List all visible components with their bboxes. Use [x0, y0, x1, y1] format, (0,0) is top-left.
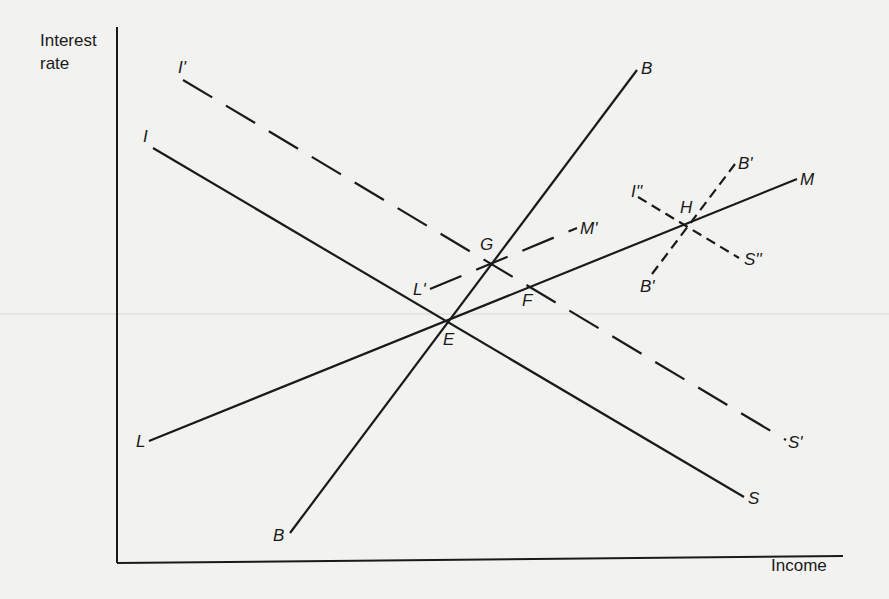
label-lm-end: M: [800, 170, 815, 189]
x-axis-label: Income: [771, 556, 827, 575]
diagram: Interest rate Income I S I' S' I'' S'' L…: [0, 0, 889, 599]
curve-lm-prime: [430, 228, 577, 289]
label-bp-end: B: [641, 59, 652, 78]
curve-is-prime: [183, 80, 786, 440]
label-lm-start: L: [136, 432, 145, 451]
label-is-end: S: [748, 489, 760, 508]
label-lm-prime-end: M': [580, 219, 598, 238]
label-lm-prime-start: L': [413, 280, 426, 299]
curve-lm: [149, 179, 797, 441]
label-is-double-prime-start: I'': [631, 182, 643, 201]
x-axis: [117, 556, 843, 563]
curve-bp: [290, 70, 637, 533]
label-is-start: I: [143, 127, 148, 146]
intersection-e: E: [443, 330, 455, 349]
label-is-prime-end: S': [788, 433, 803, 452]
label-is-prime-start: I': [178, 58, 187, 77]
intersection-f: F: [522, 291, 534, 310]
label-is-double-prime-end: S'': [744, 250, 763, 269]
y-axis-label-line1: Interest: [40, 31, 97, 50]
label-bp-start: B: [273, 526, 284, 545]
curve-bp-prime: [652, 164, 735, 274]
label-bp-prime-end: B': [738, 154, 753, 173]
y-axis-label-line2: rate: [40, 54, 69, 73]
intersection-h: H: [680, 198, 693, 217]
label-bp-prime-start: B': [640, 277, 655, 296]
intersection-g: G: [480, 235, 493, 254]
